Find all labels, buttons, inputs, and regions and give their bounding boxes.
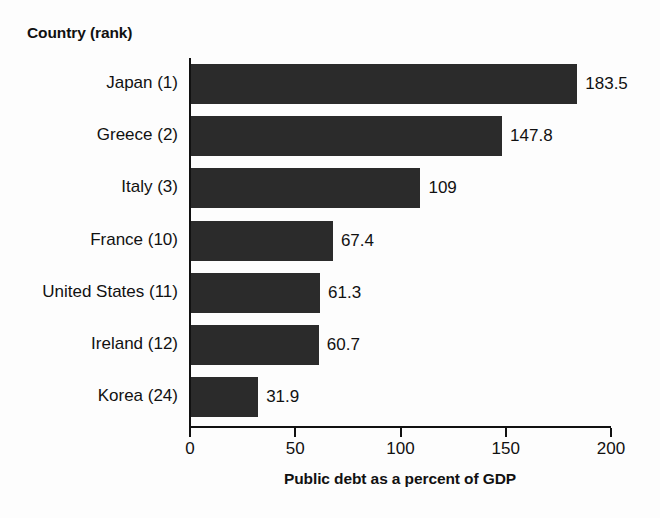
bar (191, 168, 420, 208)
bar (191, 116, 502, 156)
bar-row: 61.3 (191, 273, 410, 313)
plot-area: 183.5147.810967.461.360.731.9 0501001502… (189, 58, 611, 427)
bar-value-label: 147.8 (510, 126, 553, 146)
bar (191, 377, 258, 417)
bar-row: 60.7 (191, 325, 409, 365)
x-axis-tick (294, 428, 296, 437)
x-axis-tick (400, 428, 402, 437)
x-axis-tick-label: 200 (581, 439, 641, 459)
bar-value-label: 109 (428, 178, 456, 198)
bar (191, 221, 333, 261)
bar-value-label: 31.9 (266, 387, 299, 407)
x-axis-tick (189, 428, 191, 437)
bar-row: 31.9 (191, 377, 348, 417)
bar-value-label: 61.3 (328, 283, 361, 303)
bar-row: 109 (191, 168, 510, 208)
bar (191, 273, 320, 313)
x-axis-tick-label: 0 (160, 439, 220, 459)
category-label: Japan (1) (0, 73, 178, 93)
x-axis-title: Public debt as a percent of GDP (189, 470, 611, 488)
bar-row: 67.4 (191, 221, 423, 261)
bar (191, 64, 577, 104)
x-axis-tick-label: 100 (371, 439, 431, 459)
bar-value-label: 183.5 (585, 74, 628, 94)
x-axis-tick-label: 150 (476, 439, 536, 459)
bar (191, 325, 319, 365)
category-label: Greece (2) (0, 125, 178, 145)
x-axis-tick (610, 428, 612, 437)
bar-value-label: 67.4 (341, 231, 374, 251)
category-label: France (10) (0, 230, 178, 250)
x-axis-tick-label: 50 (265, 439, 325, 459)
bar-chart-figure: Country (rank) 183.5147.810967.461.360.7… (0, 0, 660, 518)
bar-row: 147.8 (191, 116, 592, 156)
bar-row: 183.5 (191, 64, 660, 104)
bar-value-label: 60.7 (327, 335, 360, 355)
category-label: Ireland (12) (0, 334, 178, 354)
category-axis-title: Country (rank) (27, 24, 132, 42)
x-axis-tick (505, 428, 507, 437)
category-label: United States (11) (0, 282, 178, 302)
category-label: Italy (3) (0, 177, 178, 197)
category-label: Korea (24) (0, 386, 178, 406)
